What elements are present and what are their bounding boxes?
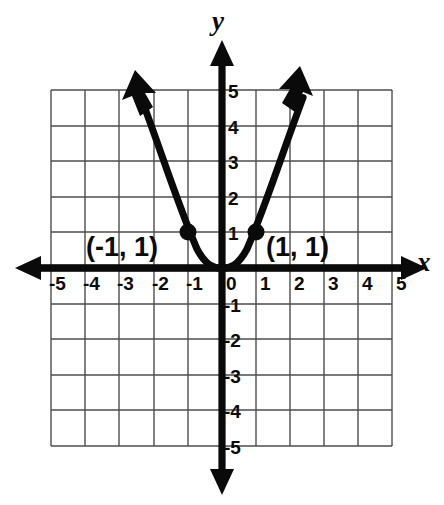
y-tick-label-2: 2: [228, 189, 239, 208]
x-tick-label-0: 0: [226, 274, 237, 293]
coordinate-plane-svg: [0, 0, 444, 505]
x-tick-label-1: 1: [260, 274, 271, 293]
x-tick-label-4: 4: [362, 274, 373, 293]
graph-figure: -5 -4 -3 -2 -1 0 1 2 3 4 5 5 4 3 2 1 -1 …: [0, 0, 444, 505]
x-tick-label-3: 3: [328, 274, 339, 293]
x-tick-label--2: -2: [152, 274, 169, 293]
y-tick-label--5: -5: [224, 438, 241, 457]
x-tick-label--4: -4: [83, 274, 100, 293]
y-tick-label--2: -2: [224, 331, 241, 350]
y-tick-label-3: 3: [228, 153, 239, 172]
x-tick-label--1: -1: [186, 274, 203, 293]
x-tick-label--3: -3: [117, 274, 134, 293]
x-tick-label-2: 2: [294, 274, 305, 293]
y-tick-label-5: 5: [228, 82, 239, 101]
x-tick-label-5: 5: [396, 274, 407, 293]
x-axis-name: x: [417, 249, 431, 276]
y-tick-label--4: -4: [224, 402, 241, 421]
point-label-left: (-1, 1): [86, 234, 158, 261]
y-tick-label-1: 1: [228, 224, 239, 243]
y-axis-name: y: [212, 8, 224, 35]
x-tick-label--5: -5: [49, 274, 66, 293]
y-tick-label--3: -3: [224, 367, 241, 386]
parabola-arrowheads: [122, 66, 313, 116]
y-tick-label-4: 4: [228, 118, 239, 137]
y-tick-label--1: -1: [224, 296, 241, 315]
point-label-right: (1, 1): [266, 234, 329, 261]
